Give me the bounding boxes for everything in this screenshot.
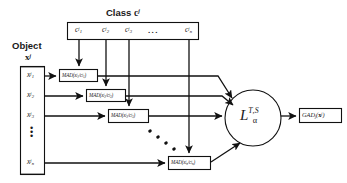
architecture-diagram: Class cj Object xj cj1 cj2 cj3 ... cjn x… bbox=[0, 0, 347, 183]
mad-box-3-outline bbox=[109, 110, 149, 123]
class-vector-box-outline bbox=[68, 23, 199, 40]
diagonal-ellipsis-dots bbox=[148, 129, 177, 152]
mad-n-to-aggregator-arrow bbox=[211, 143, 240, 162]
aggregator-circle-outline bbox=[225, 90, 281, 146]
mad-2-to-aggregator-arrow bbox=[126, 96, 233, 105]
mad-box-4-outline bbox=[169, 157, 211, 170]
mad-1-to-aggregator-arrow bbox=[98, 76, 232, 98]
output-box-outline bbox=[300, 109, 342, 123]
object-vector-dividers bbox=[21, 67, 44, 174]
object-vector-box-outline bbox=[21, 67, 45, 175]
diagram-canvas bbox=[0, 0, 347, 183]
mad-box-1-outline bbox=[60, 70, 98, 82]
mad-box-2-outline bbox=[87, 90, 126, 102]
